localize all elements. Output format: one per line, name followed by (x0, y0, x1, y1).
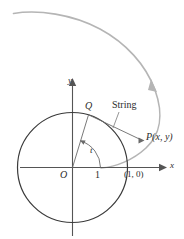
string-segment (89, 115, 143, 141)
point-p-marker (139, 138, 145, 144)
y-axis-label: y (68, 76, 72, 85)
involute-curve (14, 12, 160, 168)
unit-tick-label: 1 (95, 170, 100, 180)
point-q-label: Q (85, 101, 92, 111)
involute-figure: y x O 1 (1, 0) Q String P(x, y) t (0, 0, 184, 239)
figure-canvas (0, 0, 184, 239)
origin-label: O (60, 170, 67, 180)
point-p-label: P(x, y) (146, 132, 173, 142)
x-axis-label: x (170, 161, 174, 170)
x-axis-arrow-icon (159, 164, 167, 171)
angle-t-label: t (90, 146, 93, 155)
string-label-leader-line (113, 112, 119, 128)
radius-oq-segment (73, 115, 89, 168)
tangent-point-label: (1, 0) (124, 170, 144, 179)
string-label: String (112, 100, 136, 110)
involute-direction-arrow-icon (148, 79, 157, 92)
